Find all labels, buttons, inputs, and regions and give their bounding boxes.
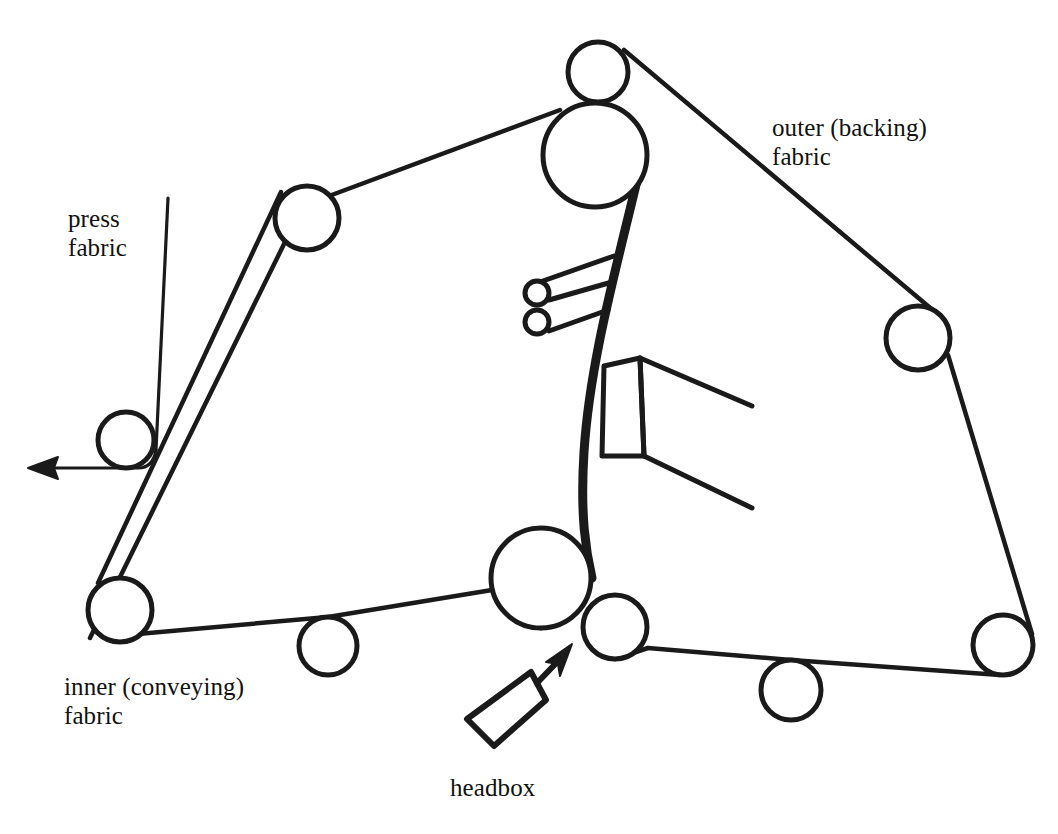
shower-roller-upper [525,281,549,305]
top-roller [568,42,628,102]
bottom-right-roller [973,615,1033,675]
press-fabric-roller [98,412,154,468]
bottom-left-idler [299,617,357,675]
main-press-roller [543,103,647,207]
couch-roller [491,528,591,628]
bottom-right-idler [761,660,821,720]
doctor-blade-box [602,358,752,508]
shower-roller-group [525,281,549,334]
press-fabric-exit-arrow [28,457,58,479]
upper-left-roller [275,186,339,250]
forming-roller [583,595,647,659]
label-press-fabric: press fabric [68,204,127,262]
shower-roller-lower [525,310,549,334]
right-roller [886,306,950,370]
label-inner-conveying-fabric: inner (conveying) fabric [64,672,244,730]
lower-left-roller [88,578,152,642]
diagram-page: press fabric outer (backing) fabric inne… [0,0,1058,834]
label-headbox: headbox [450,773,535,802]
label-outer-backing-fabric: outer (backing) fabric [772,113,927,171]
